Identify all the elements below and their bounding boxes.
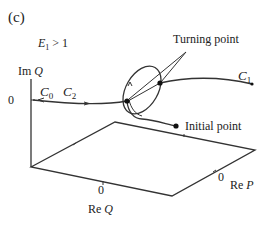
im-q-zero-label: 0 (8, 93, 14, 107)
re-p-zero-label: 0 (218, 170, 224, 184)
c1-label: C1 (238, 68, 251, 85)
turning-point-left (124, 98, 129, 103)
initial-point-label: Initial point (185, 119, 242, 133)
initial-point (173, 123, 178, 128)
panel-label: (c) (8, 9, 25, 26)
condition-label: E1 > 1 (37, 36, 68, 52)
loop-ellipse (115, 59, 169, 120)
diagram-canvas: (c) E1 > 1 ImQ 0 0 ReQ 0 ReP C0 C2 C1 Tu… (0, 0, 278, 230)
turning-point-pointer (161, 52, 186, 82)
re-p-axis-label: ReP (230, 178, 254, 192)
c0-label: C0 (40, 84, 54, 101)
re-q-zero-label: 0 (98, 183, 104, 197)
c1-end-point (250, 82, 253, 85)
turning-point-right (157, 80, 162, 85)
c2-label: C2 (63, 84, 76, 101)
curve-c0-c2 (33, 100, 127, 104)
im-q-axis-label: ImQ (18, 64, 43, 78)
arrow-icon (128, 82, 132, 86)
turning-point-label: Turning point (173, 32, 240, 46)
re-q-axis-label: ReQ (88, 202, 113, 216)
turning-point-pointer (129, 52, 186, 99)
re-plane (31, 122, 255, 196)
